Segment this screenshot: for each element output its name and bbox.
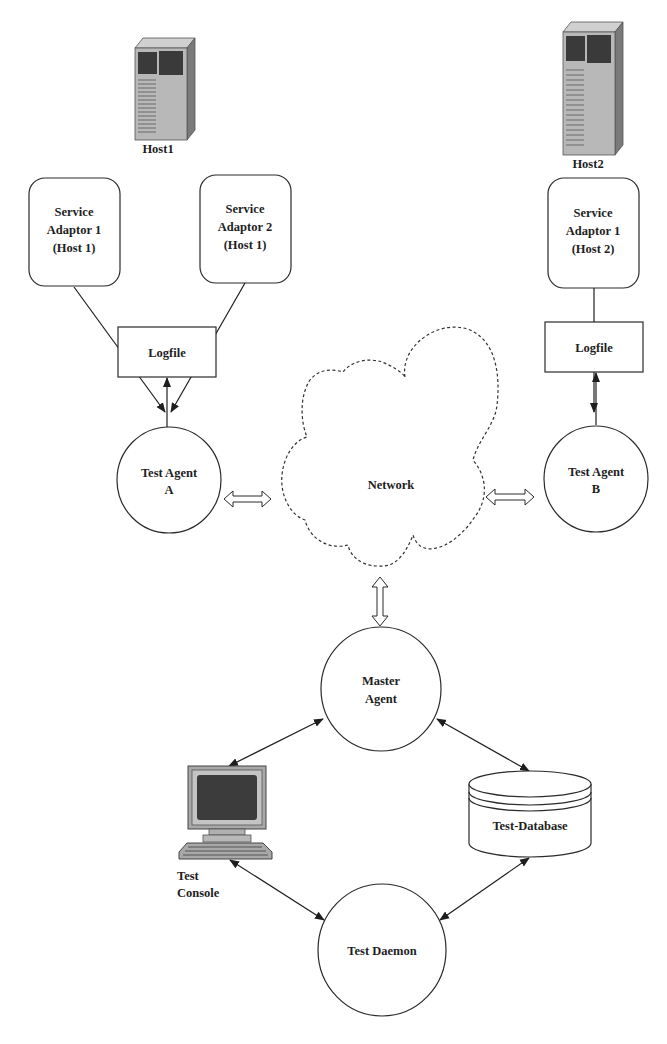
svg-text:Service: Service <box>226 202 265 216</box>
svg-text:Test Agent: Test Agent <box>568 465 625 479</box>
svg-text:Logfile: Logfile <box>575 341 613 355</box>
svg-text:Service: Service <box>55 205 94 219</box>
logfile-a[interactable]: Logfile <box>118 327 216 377</box>
arrow-master-console <box>229 719 323 766</box>
svg-text:Test-Database: Test-Database <box>492 819 568 833</box>
double-arrow-network-agent-b <box>486 489 534 505</box>
svg-text:(Host 1): (Host 1) <box>53 241 96 255</box>
network-cloud[interactable]: Network <box>282 327 498 566</box>
svg-text:Adaptor 1: Adaptor 1 <box>566 224 620 238</box>
computer-icon-test-console[interactable] <box>179 766 272 859</box>
service-adaptor-1-host1[interactable]: Service Adaptor 1 (Host 1) <box>29 178 120 286</box>
svg-text:Network: Network <box>368 478 415 492</box>
server-icon-host1 <box>135 38 195 140</box>
arrow-master-database <box>437 719 529 771</box>
test-console-label-line2: Console <box>177 886 220 900</box>
test-daemon[interactable]: Test Daemon <box>318 884 446 1016</box>
svg-text:Master: Master <box>362 674 401 688</box>
svg-text:(Host 2): (Host 2) <box>572 242 615 256</box>
arrow-console-daemon <box>230 860 324 920</box>
svg-text:B: B <box>592 482 600 496</box>
test-agent-b[interactable]: Test Agent B <box>544 426 648 532</box>
svg-text:Agent: Agent <box>365 692 398 706</box>
service-adaptor-1-host2[interactable]: Service Adaptor 1 (Host 2) <box>548 178 639 288</box>
host2-label: Host2 <box>572 157 603 171</box>
architecture-diagram: Host1 Host2 Service Adaptor 1 (Host 1) S… <box>0 0 667 1044</box>
test-console-label-line1: Test <box>177 869 200 883</box>
svg-text:Adaptor 2: Adaptor 2 <box>218 220 272 234</box>
svg-text:Logfile: Logfile <box>148 346 186 360</box>
svg-text:Test Agent: Test Agent <box>141 466 198 480</box>
logfile-b[interactable]: Logfile <box>545 322 643 372</box>
svg-text:Adaptor 1: Adaptor 1 <box>47 223 101 237</box>
double-arrow-network-master <box>372 577 388 626</box>
double-arrow-agent-a-network <box>224 491 271 507</box>
service-adaptor-2-host1[interactable]: Service Adaptor 2 (Host 1) <box>200 175 291 283</box>
svg-text:A: A <box>164 483 173 497</box>
svg-text:Service: Service <box>574 206 613 220</box>
test-agent-a[interactable]: Test Agent A <box>117 427 221 533</box>
host1-label: Host1 <box>142 142 173 156</box>
svg-text:(Host 1): (Host 1) <box>224 238 267 252</box>
arrow-database-daemon <box>440 858 529 920</box>
master-agent[interactable]: Master Agent <box>321 627 441 751</box>
server-icon-host2 <box>563 22 623 155</box>
database-icon-test-database[interactable]: Test-Database <box>469 771 591 857</box>
svg-text:Test Daemon: Test Daemon <box>347 944 416 958</box>
